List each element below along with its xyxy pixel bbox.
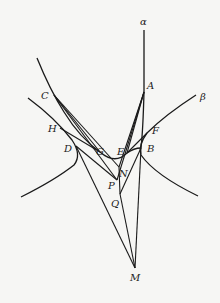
geometry-figure: α β A B C D E F G H N P Q M: [0, 0, 220, 303]
label-B: B: [146, 143, 154, 154]
label-Q: Q: [111, 198, 119, 209]
label-G: G: [96, 146, 104, 157]
label-A: A: [146, 80, 154, 91]
label-C: C: [41, 90, 49, 101]
label-M: M: [129, 272, 141, 283]
label-D: D: [63, 143, 72, 154]
label-beta: β: [199, 91, 206, 102]
label-H: H: [47, 123, 57, 134]
label-F: F: [151, 125, 160, 136]
label-alpha: α: [140, 16, 147, 27]
label-E: E: [116, 146, 125, 157]
diagram-canvas: α β A B C D E F G H N P Q M: [0, 0, 220, 303]
point-labels: A B C D E F G H N P Q M: [41, 80, 160, 283]
label-P: P: [107, 180, 115, 191]
label-N: N: [118, 168, 129, 179]
